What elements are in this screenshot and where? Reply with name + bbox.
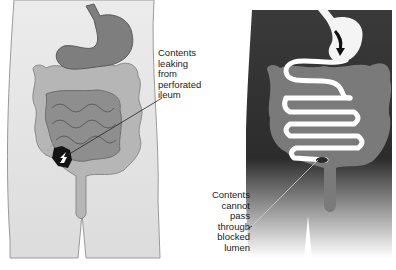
obstruction-label: Contents cannot pass through blocked lum…: [190, 190, 250, 253]
leader-line-obstruction: [252, 160, 318, 226]
